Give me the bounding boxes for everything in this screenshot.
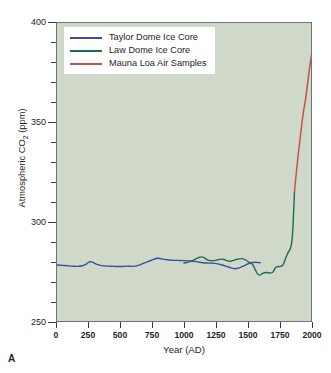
x-axis-tick-major <box>88 322 89 328</box>
y-axis-tick-label: 400 <box>6 17 46 27</box>
x-axis-tick-major <box>312 322 313 328</box>
x-axis-tick-major <box>216 322 217 328</box>
x-axis-tick-label: 2000 <box>290 330 331 340</box>
legend-label-taylor-dome: Taylor Dome Ice Core <box>109 32 198 43</box>
series-path-taylor-dome <box>57 258 260 269</box>
y-axis-tick-minor <box>51 142 56 143</box>
y-axis-tick-minor <box>51 162 56 163</box>
y-axis-tick-major <box>48 322 56 323</box>
y-axis-tick-minor <box>51 242 56 243</box>
y-axis-tick-major <box>48 22 56 23</box>
x-axis-tick-major <box>184 322 185 328</box>
y-axis-tick-label: 350 <box>6 117 46 127</box>
y-axis-tick-label: 300 <box>6 217 46 227</box>
y-axis-tick-minor <box>51 282 56 283</box>
y-axis-tick-minor <box>51 102 56 103</box>
x-axis-tick-major <box>56 322 57 328</box>
legend-label-law-dome: Law Dome Ice Core <box>109 45 190 56</box>
y-axis-tick-minor <box>51 82 56 83</box>
legend-item-law-dome: Law Dome Ice Core <box>70 44 207 57</box>
x-axis-title: Year (AD) <box>56 344 312 355</box>
legend-swatch-taylor-dome <box>70 37 102 39</box>
legend-swatch-law-dome <box>70 50 102 52</box>
y-axis-tick-minor <box>51 262 56 263</box>
y-axis-tick-major <box>48 222 56 223</box>
x-axis-tick-major <box>152 322 153 328</box>
y-axis-tick-minor <box>51 202 56 203</box>
legend-item-mauna-loa: Mauna Loa Air Samples <box>70 57 207 70</box>
legend-label-mauna-loa: Mauna Loa Air Samples <box>109 58 207 69</box>
figure-panel-a: Taylor Dome Ice Core Law Dome Ice Core M… <box>0 0 331 373</box>
y-axis-tick-major <box>48 122 56 123</box>
y-axis-tick-minor <box>51 62 56 63</box>
y-axis-tick-label: 250 <box>6 317 46 327</box>
y-axis-tick-minor <box>51 182 56 183</box>
x-axis-tick-major <box>248 322 249 328</box>
y-axis-tick-minor <box>51 42 56 43</box>
x-axis-tick-major <box>280 322 281 328</box>
x-axis-tick-major <box>120 322 121 328</box>
legend-item-taylor-dome: Taylor Dome Ice Core <box>70 31 207 44</box>
panel-label: A <box>8 353 15 364</box>
series-path-mauna-loa <box>294 52 311 192</box>
y-axis-tick-minor <box>51 302 56 303</box>
chart-legend: Taylor Dome Ice Core Law Dome Ice Core M… <box>64 27 215 74</box>
legend-swatch-mauna-loa <box>70 63 102 65</box>
